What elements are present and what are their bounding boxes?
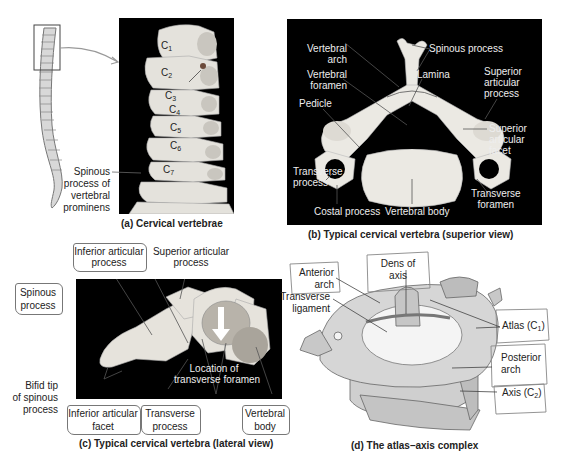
dens-of-axis-label: Dens ofaxis bbox=[368, 258, 428, 282]
atlas-axis-illustration bbox=[0, 0, 566, 468]
posterior-arch-label: Posteriorarch bbox=[501, 352, 541, 376]
axis-label: Axis (C2) bbox=[502, 387, 541, 398]
transverse-ligament-label: Transverseligament bbox=[278, 291, 330, 315]
atlas-label: Atlas (C1) bbox=[502, 320, 545, 331]
caption-d: (d) The atlas–axis complex bbox=[351, 440, 478, 451]
anterior-arch-label: Anteriorarch bbox=[290, 267, 334, 291]
